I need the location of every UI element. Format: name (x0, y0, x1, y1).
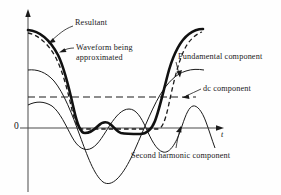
x-axis-label: t (221, 130, 223, 139)
fundamental-arrowhead (177, 70, 183, 78)
fundamental-component-curve (28, 69, 204, 183)
second-harmonic-arrowhead (176, 126, 182, 133)
fourier-approximation-figure: 0 t Resultant Waveform being approximate… (0, 0, 281, 195)
fundamental-component-label: Fundamental component (178, 52, 262, 62)
waveform-arrowhead (59, 48, 67, 52)
origin-label: 0 (14, 121, 19, 131)
second-harmonic-component-curve (28, 102, 215, 152)
waveform-plot-svg (0, 0, 281, 195)
y-axis-arrowhead (25, 9, 30, 17)
axes-group (20, 9, 224, 192)
resultant-label: Resultant (75, 18, 107, 28)
waveform-being-approximated-label: Waveform being approximated (76, 43, 154, 63)
second-harmonic-component-label: Second harmonic component (131, 151, 230, 161)
dc-component-label: dc component (203, 84, 251, 94)
resultant-leader-line (51, 26, 73, 41)
